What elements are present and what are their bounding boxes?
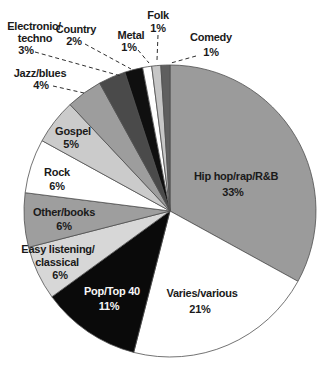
slice-label-line: Jazz/blues xyxy=(14,67,67,79)
slice-label-line: 11% xyxy=(99,300,120,312)
slice-label-comedy: Comedy1% xyxy=(190,31,233,58)
slice-label-line: 21% xyxy=(189,303,211,315)
pie-chart-svg: Hip hop/rap/R&B33%Varies/various21%Pop/T… xyxy=(0,0,320,378)
slice-label-line: Comedy xyxy=(190,31,233,43)
slice-label-line: 5% xyxy=(63,138,79,150)
slice-label-line: 4% xyxy=(33,79,49,91)
slice-label-line: Electronic/ xyxy=(7,20,61,32)
slice-label-line: 3% xyxy=(18,44,34,56)
slice-label-line: Metal xyxy=(118,29,145,41)
slice-label-jazz-blues: Jazz/blues4% xyxy=(14,67,67,91)
slice-label-line: Varies/various xyxy=(166,287,237,299)
chart-container: Hip hop/rap/R&B33%Varies/various21%Pop/T… xyxy=(0,0,320,378)
slice-label-line: techno xyxy=(18,32,53,44)
slice-label-line: 1% xyxy=(203,46,219,58)
slice-label-line: 2% xyxy=(66,35,82,47)
leader-line-folk xyxy=(157,35,158,60)
slice-label-line: 6% xyxy=(49,180,65,192)
slice-label-line: Gospel xyxy=(55,125,91,137)
slice-label-line: Country xyxy=(56,23,98,35)
slice-label-line: 33% xyxy=(222,186,244,198)
slice-label-folk: Folk1% xyxy=(147,9,170,34)
slice-label-metal: Metal1% xyxy=(118,29,145,53)
slice-label-line: Easy listening/ xyxy=(21,243,94,255)
slice-label-line: Rock xyxy=(44,166,71,178)
slice-label-line: 6% xyxy=(56,220,72,232)
leader-line-metal xyxy=(138,50,149,63)
slice-label-electronic-techno: Electronic/techno3% xyxy=(7,20,61,56)
slice-label-line: 1% xyxy=(121,41,137,53)
leader-line-jazz-blues xyxy=(53,86,84,93)
slice-label-line: 1% xyxy=(150,22,166,34)
slice-label-line: Hip hop/rap/R&B xyxy=(194,170,279,182)
leader-line-comedy xyxy=(171,56,196,63)
slice-label-line: Folk xyxy=(147,9,170,21)
slice-label-line: 6% xyxy=(52,269,68,281)
slice-label-line: Pop/Top 40 xyxy=(84,285,140,297)
slice-label-country: Country2% xyxy=(56,23,98,47)
slice-label-line: Other/books xyxy=(33,206,95,218)
slice-label-line: classical xyxy=(35,256,79,268)
